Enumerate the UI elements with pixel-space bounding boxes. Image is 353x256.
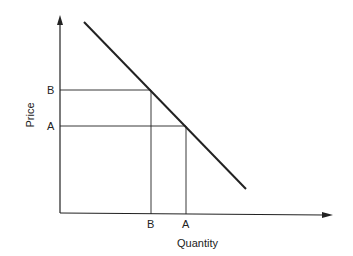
y-axis-arrow — [57, 15, 63, 25]
demand-curve — [84, 22, 246, 189]
x-axis-label: Quantity — [177, 238, 218, 249]
x-tick-b: B — [147, 219, 154, 230]
y-tick-a: A — [47, 121, 54, 132]
x-tick-a: A — [182, 219, 189, 230]
x-axis-arrow — [322, 212, 333, 218]
y-tick-b: B — [47, 85, 54, 96]
y-axis-label: Price — [24, 102, 36, 127]
x-axis — [60, 213, 325, 215]
